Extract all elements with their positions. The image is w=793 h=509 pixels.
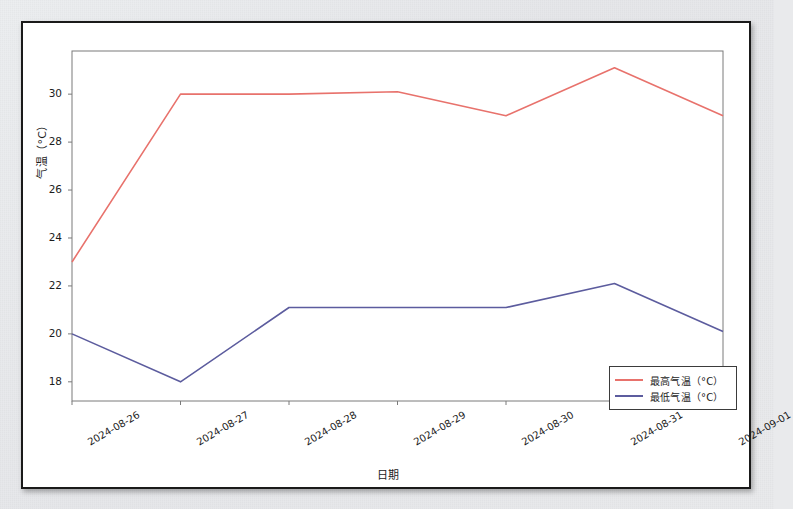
x-axis-title: 日期 xyxy=(23,466,753,482)
y-tick-label: 20 xyxy=(36,327,62,339)
chart-legend[interactable]: 最高气温（°C）最低气温（°C） xyxy=(609,366,737,410)
figure-frame: 气温（°C） 日期 18202224262830 2024-08-262024-… xyxy=(21,21,751,489)
legend-label: 最低气温（°C） xyxy=(650,389,724,404)
y-tick-label: 30 xyxy=(36,87,62,99)
legend-color-swatch xyxy=(615,379,643,381)
legend-color-swatch xyxy=(615,395,643,397)
legend-label: 最高气温（°C） xyxy=(650,373,724,388)
y-tick-label: 28 xyxy=(36,135,62,147)
y-tick-label: 24 xyxy=(36,231,62,243)
plot-area-frame xyxy=(72,51,723,401)
legend-item-0[interactable]: 最高气温（°C） xyxy=(615,372,730,388)
y-tick-label: 22 xyxy=(36,279,62,291)
y-tick-label: 26 xyxy=(36,183,62,195)
y-tick-label: 18 xyxy=(36,375,62,387)
legend-item-1[interactable]: 最低气温（°C） xyxy=(615,388,730,404)
